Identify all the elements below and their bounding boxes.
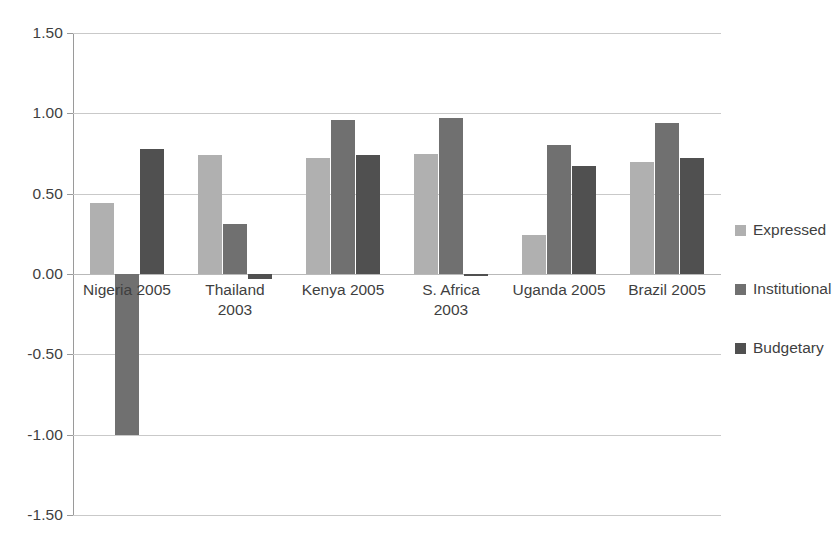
legend-item: Expressed <box>735 218 840 242</box>
bar-group <box>613 33 721 515</box>
x-axis-category-label: Thailand 2003 <box>181 280 289 320</box>
bar-chart: 1.501.000.500.00-0.50-1.00-1.50 Nigeria … <box>0 0 840 551</box>
legend-label: Budgetary <box>753 339 824 357</box>
bar-group <box>181 33 289 515</box>
bar <box>223 224 247 274</box>
bar <box>547 145 571 274</box>
x-axis-category-label: Nigeria 2005 <box>73 280 181 300</box>
bar <box>439 118 463 274</box>
legend-item: Budgetary <box>735 336 840 360</box>
legend-item: Institutional <box>735 277 840 301</box>
bar-group <box>505 33 613 515</box>
bar <box>572 166 596 274</box>
y-axis-tick-label: 0.50 <box>5 185 63 203</box>
bar <box>248 274 272 279</box>
gridline <box>73 515 721 516</box>
legend-swatch-icon <box>735 284 746 295</box>
bar <box>680 158 704 274</box>
bar <box>630 162 654 274</box>
legend-swatch-icon <box>735 343 746 354</box>
x-axis-category-label: Brazil 2005 <box>613 280 721 300</box>
x-axis-category-label: Uganda 2005 <box>505 280 613 300</box>
y-axis-tick-label: -1.50 <box>5 506 63 524</box>
bar <box>331 120 355 274</box>
bar-group <box>289 33 397 515</box>
bar <box>655 123 679 274</box>
bar <box>356 155 380 274</box>
chart-legend: ExpressedInstitutionalBudgetary <box>735 218 840 395</box>
legend-label: Institutional <box>753 280 831 298</box>
bar <box>90 203 114 274</box>
bar <box>198 155 222 274</box>
y-axis-tick-label: -1.00 <box>5 426 63 444</box>
bar <box>522 235 546 274</box>
bar <box>414 154 438 275</box>
bar-group <box>73 33 181 515</box>
bar-group <box>397 33 505 515</box>
y-axis-tick-label: -0.50 <box>5 345 63 363</box>
legend-label: Expressed <box>753 221 826 239</box>
bar <box>306 158 330 274</box>
y-axis-tick-label: 1.50 <box>5 24 63 42</box>
x-axis-category-label: Kenya 2005 <box>289 280 397 300</box>
plot-area <box>73 33 721 515</box>
bar <box>140 149 164 274</box>
x-axis-category-label: S. Africa 2003 <box>397 280 505 320</box>
y-axis-tick-label: 1.00 <box>5 104 63 122</box>
y-axis-tick-label: 0.00 <box>5 265 63 283</box>
legend-swatch-icon <box>735 225 746 236</box>
bar <box>464 274 488 276</box>
